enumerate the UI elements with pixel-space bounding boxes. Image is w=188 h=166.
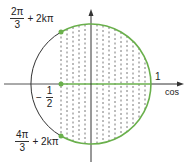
angle-lower-suffix: + 2kπ	[32, 136, 58, 147]
cos-value-label: − 1 2	[36, 86, 53, 109]
point-upper	[59, 30, 64, 35]
point-lower	[59, 134, 64, 139]
angle-upper-denominator: 3	[14, 19, 20, 30]
cos-value-numerator: 1	[46, 86, 54, 98]
cos-value-sign: −	[36, 92, 42, 103]
angle-upper-suffix: + 2kπ	[27, 13, 53, 24]
angle-lower-numerator: 4π	[15, 130, 29, 142]
x-axis-arrow-icon	[177, 82, 184, 87]
angle-upper-label: 2π 3 + 2kπ	[10, 7, 54, 30]
angle-upper-numerator: 2π	[10, 7, 24, 19]
x-axis-label: cos	[165, 88, 179, 97]
cos-value-denominator: 2	[47, 98, 53, 109]
y-axis-arrow-icon	[89, 9, 94, 16]
angle-lower-label: 4π 3 + 2kπ	[15, 130, 59, 153]
point-axis	[59, 82, 64, 87]
tick-label-one: 1	[155, 72, 161, 82]
angle-lower-denominator: 3	[19, 142, 25, 153]
